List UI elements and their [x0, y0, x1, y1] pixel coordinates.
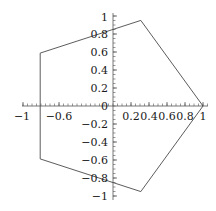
pentagon-plot: −1−0.60.20.40.60.81 10.80.60.40.20−0.2−0…: [0, 0, 216, 211]
x-tick-label: 1: [200, 110, 207, 123]
y-tick-label: −1: [92, 190, 108, 203]
y-tick-label: 1: [101, 11, 108, 24]
y-tick-label: −0.8: [81, 172, 108, 185]
y-tick-labels-group: 10.80.60.40.20−0.2−0.4−0.6−0.8−1: [81, 11, 108, 203]
y-tick-label: −0.4: [81, 136, 108, 149]
x-tick-label: 0.2: [122, 110, 140, 123]
y-tick-label: 0: [101, 100, 108, 113]
y-tick-label: 0.8: [91, 28, 109, 41]
chart-page: −1−0.60.20.40.60.81 10.80.60.40.20−0.2−0…: [0, 0, 216, 211]
y-tick-label: −0.6: [81, 154, 108, 167]
x-tick-label: 0.8: [176, 110, 194, 123]
y-tick-label: 0.2: [91, 82, 109, 95]
y-tick-label: 0.6: [91, 46, 109, 59]
x-tick-label: −1: [14, 110, 30, 123]
x-tick-labels-group: −1−0.60.20.40.60.81: [14, 110, 207, 123]
y-tick-label: 0.4: [91, 64, 109, 77]
x-tick-label: 0.4: [140, 110, 158, 123]
y-tick-label: −0.2: [81, 118, 108, 131]
x-tick-label: 0.6: [158, 110, 176, 123]
x-tick-label: −0.6: [46, 110, 73, 123]
